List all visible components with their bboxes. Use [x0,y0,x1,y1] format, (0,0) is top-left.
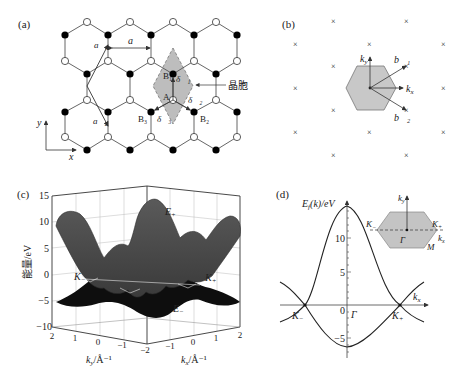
energy-axis-label: Ef(k)/eV [301,198,336,211]
kx-label: kx [413,291,421,304]
inset-kx-label: kx [438,233,445,244]
svg-text:0: 0 [191,337,196,347]
vector-a1 [87,45,108,86]
gamma-label: Γ [350,309,357,320]
svg-text:10: 10 [335,233,345,244]
vector-a1-label: a⃗₁ [94,40,109,50]
svg-text:5: 5 [44,243,49,254]
svg-text:×: × [293,84,298,93]
svg-text:1: 1 [214,333,219,343]
k-plus-label: K+ [391,310,404,323]
panel-c: (c) 15 10 5 [17,186,242,367]
ky-label: ky [360,53,368,66]
unit-cell-label: 晶胞 [228,80,248,91]
svg-text:10: 10 [39,216,49,227]
inset-m-label: M [426,242,435,252]
svg-text:×: × [404,17,409,26]
atom-b1-label: B₁ [163,71,172,81]
z-axis-ticks: 15 10 5 0 −5 −10 [36,190,52,332]
svg-text:×: × [293,40,298,49]
inset-gamma-point [406,229,409,232]
delta3-label: δ⃗₃ [157,114,171,124]
panel-c-label: (c) [17,188,30,201]
kx-label: kx [406,83,414,96]
svg-text:−1: −1 [165,341,175,351]
panel-b-label: (b) [282,18,295,31]
svg-text:1: 1 [73,333,78,343]
delta2-label: δ⃗₂ [188,95,202,105]
inset-gamma-label: Γ [399,235,406,245]
lattice-bonds [65,22,237,150]
lattice-constant-label: a [128,35,133,46]
energy-axis-ticks [347,211,351,352]
energy-axis-label: 能量/eV [21,244,33,279]
svg-text:−1: −1 [117,340,127,350]
energy-tick-labels: 10 5 0 −5 [334,233,345,344]
dirac-point-k-plus [398,303,401,306]
dirac-point-k-minus [303,303,306,306]
b2-label: b⃗₂ [394,112,411,123]
svg-text:×: × [367,40,372,49]
vector-a2-label: a⃗₂ [93,116,108,126]
atom-b3-label: B₃ [138,114,147,124]
svg-text:×: × [331,151,336,160]
band-lower-label: E− [172,303,184,316]
inset-ky-label: ky [398,193,405,204]
svg-text:×: × [441,128,446,137]
svg-text:×: × [331,106,336,115]
kx-ticks: −1 0 1 2 [165,330,242,351]
panel-d-label: (d) [276,188,289,201]
figure-canvas: (a) a [0,0,465,369]
svg-text:×: × [441,40,446,49]
panel-b: (b) ×× ××× ×× ×× ×× ××× ×× ky kx b⃗₁ b⃗₂ [282,17,446,160]
k-minus-label: K− [291,310,304,323]
svg-text:0: 0 [44,269,49,280]
b1-label: b⃗₁ [394,54,410,65]
brillouin-zone-inset: ky kx K− K+ Γ M [365,193,445,252]
inset-k-plus-label: K+ [431,219,442,230]
panel-a-label: (a) [18,18,31,31]
ky-axis-label: ky/Å⁻¹ [86,354,112,367]
panel-d: (d) 10 5 0 −5 Ef(k)/eV kx Γ K− K+ [276,188,445,358]
svg-text:0: 0 [96,337,101,347]
svg-text:15: 15 [39,190,49,201]
panel-a: (a) a [18,18,248,162]
axis-y-label: y [36,117,42,128]
svg-text:×: × [331,17,336,26]
atom-a-label: A [163,92,170,102]
inset-k-minus-label: K− [365,219,376,230]
svg-text:2: 2 [238,330,243,340]
axis-x-label: x [68,151,74,162]
k-plus-label-3d: K+ [204,272,217,285]
svg-text:−2: −2 [140,345,150,355]
svg-text:×: × [404,151,409,160]
kx-axis-label: kx/Å⁻¹ [181,354,207,367]
svg-text:5: 5 [340,267,345,278]
svg-text:2: 2 [50,331,55,341]
delta1-label: δ⃗₁ [176,74,190,84]
svg-text:×: × [293,128,298,137]
svg-text:−5: −5 [38,295,49,306]
svg-text:0: 0 [340,305,345,316]
atom-b2-label: B₂ [200,114,209,124]
svg-text:×: × [331,62,336,71]
svg-text:×: × [367,128,372,137]
svg-text:×: × [441,84,446,93]
